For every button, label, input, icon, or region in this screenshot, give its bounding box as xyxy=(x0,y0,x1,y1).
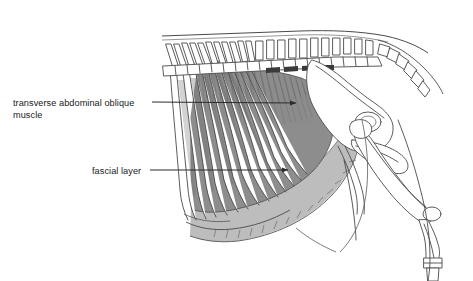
sacrum xyxy=(333,38,373,55)
anatomical-figure: transverse abdominal oblique muscle fasc… xyxy=(0,0,473,281)
label-transverse-abdominal-oblique-muscle-line2: muscle xyxy=(13,110,42,120)
lumbar-spinous-processes xyxy=(256,38,329,60)
label-fascial-layer: fascial layer xyxy=(92,166,141,176)
hind-limb xyxy=(344,120,442,281)
anatomy-illustration: transverse abdominal oblique muscle fasc… xyxy=(0,0,473,281)
label-transverse-abdominal-oblique-muscle-line1: transverse abdominal oblique xyxy=(13,98,134,108)
